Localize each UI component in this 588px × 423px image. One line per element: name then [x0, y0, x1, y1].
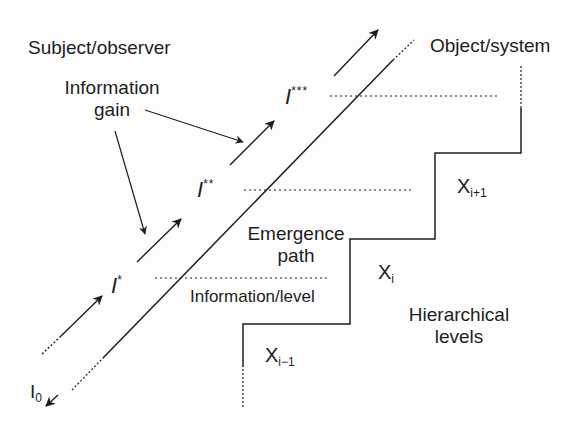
i0-symbol: I0 — [30, 382, 42, 404]
emergence-path-label: Emergence path — [240, 224, 352, 265]
information-gain-line1: Information — [58, 78, 166, 97]
subject-observer-label: Subject/observer — [28, 38, 171, 57]
i-star-symbol: I* — [111, 274, 123, 297]
hierarchical-levels-line2: levels — [401, 327, 517, 346]
i-double-star-arrow — [137, 219, 181, 262]
object-system-label: Object/system — [430, 36, 550, 55]
information-gain-line2: gain — [58, 100, 166, 119]
emergence-path-line1: Emergence — [240, 224, 352, 243]
information-gain-label: Information gain — [58, 78, 166, 119]
emergence-diagram: Subject/observer Information gain Object… — [0, 0, 588, 423]
level-x-i-minus-1: Xi−1 — [265, 345, 295, 368]
hierarchical-levels-line1: Hierarchical — [401, 305, 517, 324]
i-star-arrow — [60, 296, 102, 337]
level-x-i: Xi — [378, 262, 394, 285]
information-level-label: Information/level — [190, 288, 315, 305]
i-double-star-symbol: I** — [197, 178, 214, 201]
i0-arrow — [46, 395, 58, 406]
emergence-path-line2: path — [240, 246, 352, 265]
i-triple-star-arrow — [230, 121, 274, 165]
level-x-i-plus-1: Xi+1 — [457, 176, 487, 199]
information-gain-arrows — [115, 110, 243, 234]
top-arrow — [334, 30, 378, 76]
hierarchical-levels-label: Hierarchical levels — [401, 305, 517, 346]
i-triple-star-symbol: I*** — [285, 85, 308, 108]
